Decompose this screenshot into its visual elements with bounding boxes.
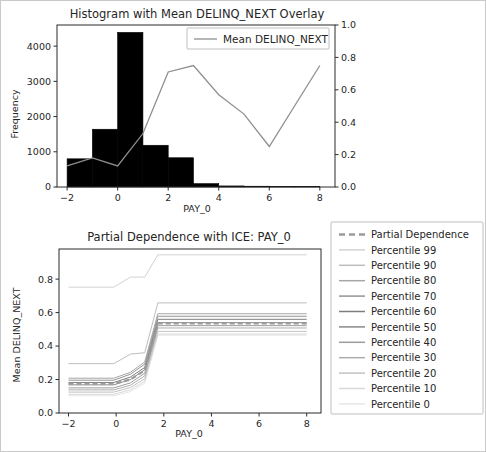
histogram-legend[interactable]: Mean DELINQ_NEXT <box>187 28 329 49</box>
x-tick-label: 2 <box>165 192 171 203</box>
y2-tick-label: 0.4 <box>341 117 356 128</box>
pdp-ice-curve <box>69 255 307 287</box>
pdp-ice-curve <box>69 303 307 364</box>
legend-label[interactable]: Percentile 80 <box>371 275 436 286</box>
legend-label[interactable]: Percentile 40 <box>371 337 436 348</box>
y-tick-label: 0.6 <box>38 307 53 318</box>
legend-label[interactable]: Percentile 60 <box>371 306 436 317</box>
legend-label[interactable]: Percentile 30 <box>371 352 436 363</box>
histogram-bar <box>143 145 168 187</box>
legend-label[interactable]: Percentile 0 <box>371 399 430 410</box>
y-tick-label: 0.2 <box>38 374 53 385</box>
y-tick-label: 3000 <box>27 76 51 87</box>
y-tick-label: 2000 <box>27 111 51 122</box>
x-tick-label: 6 <box>266 192 272 203</box>
y-tick-label: 1000 <box>27 146 51 157</box>
legend-label[interactable]: Percentile 70 <box>371 291 436 302</box>
histogram-y-axis-label: Frequency <box>9 89 20 138</box>
histogram-bar <box>193 184 218 187</box>
pdp-ice-curve <box>69 319 307 382</box>
x-tick-label: −2 <box>60 192 74 203</box>
pdp-legend[interactable]: Partial DependencePercentile 99Percentil… <box>331 222 483 414</box>
x-tick-label: −2 <box>62 418 76 429</box>
x-tick-label: 4 <box>216 192 222 203</box>
legend-label[interactable]: Percentile 10 <box>371 383 436 394</box>
histogram-bars <box>67 32 320 187</box>
histogram-bar <box>118 32 143 187</box>
legend-label[interactable]: Percentile 20 <box>371 368 436 379</box>
pdp-title: Partial Dependence with ICE: PAY_0 <box>87 230 291 244</box>
legend-label[interactable]: Partial Dependence <box>371 229 469 240</box>
histogram-panel: Histogram with Mean DELINQ_NEXT Overlay … <box>1 1 486 219</box>
histogram-x-axis-label: PAY_0 <box>183 203 210 214</box>
histogram-title: Histogram with Mean DELINQ_NEXT Overlay <box>70 7 325 21</box>
pdp-ice-curve <box>69 323 307 385</box>
y2-tick-label: 0.8 <box>341 52 356 63</box>
legend-label: Mean DELINQ_NEXT <box>223 33 328 46</box>
x-tick-label: 0 <box>115 192 121 203</box>
pdp-ice-panel: Partial Dependence with ICE: PAY_0 PAY_0… <box>1 219 486 452</box>
y-tick-label: 4000 <box>27 41 51 52</box>
pdp-ice-svg: Partial Dependence with ICE: PAY_0 PAY_0… <box>1 219 486 452</box>
x-tick-label: 8 <box>304 418 310 429</box>
pdp-x-axis-label: PAY_0 <box>175 428 202 439</box>
y2-tick-label: 0.0 <box>341 181 356 192</box>
y2-tick-label: 1.0 <box>341 19 356 30</box>
y-tick-label: 0 <box>45 181 51 192</box>
x-tick-label: 2 <box>161 418 167 429</box>
x-tick-label: 4 <box>208 418 214 429</box>
legend-label[interactable]: Percentile 90 <box>371 260 436 271</box>
y-tick-label: 0.8 <box>38 274 53 285</box>
y-tick-label: 0.4 <box>38 340 53 351</box>
histogram-bar <box>92 129 117 187</box>
x-tick-label: 0 <box>113 418 119 429</box>
pdp-ice-curve <box>69 335 307 396</box>
pdp-axes: −2024680.00.20.40.60.8 <box>38 249 321 429</box>
histogram-svg: Histogram with Mean DELINQ_NEXT Overlay … <box>1 1 486 219</box>
pdp-ice-curve <box>69 323 307 383</box>
pdp-y-axis-label: Mean DELINQ_NEXT <box>11 287 22 382</box>
y2-tick-label: 0.6 <box>341 84 356 95</box>
x-tick-label: 6 <box>256 418 262 429</box>
x-tick-label: 8 <box>317 192 323 203</box>
pdp-ice-curves <box>69 255 307 396</box>
y2-tick-label: 0.2 <box>341 149 356 160</box>
legend-label[interactable]: Percentile 50 <box>371 322 436 333</box>
legend-label[interactable]: Percentile 99 <box>371 245 436 256</box>
y-tick-label: 0.0 <box>38 407 53 418</box>
figure-canvas: Histogram with Mean DELINQ_NEXT Overlay … <box>0 0 486 452</box>
histogram-bar <box>67 159 92 187</box>
histogram-bar <box>168 158 193 187</box>
